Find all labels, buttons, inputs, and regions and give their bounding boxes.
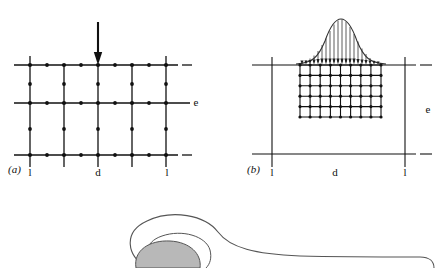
panel-a-tick-left: l [28, 166, 31, 178]
panel-a-centerline-dashes [182, 65, 192, 155]
panel-b-dim-width: d [332, 166, 338, 178]
point-load-arrow-icon [94, 22, 102, 65]
panel-a: (a) l d l e [8, 22, 199, 178]
panel-a-grid-horizontal [14, 65, 190, 155]
distributed-load-bell-curve [296, 19, 386, 64]
figure-root: (a) l d l e [0, 0, 441, 268]
panel-b-mesh-vertical [300, 65, 381, 117]
panel-a-grid-vertical [30, 56, 166, 167]
panel-a-dim-depth: e [194, 96, 199, 108]
panel-b-label: (b) [247, 163, 260, 176]
panel-b-tick-right: l [403, 166, 406, 178]
panel-a-tick-right: l [165, 166, 168, 178]
panel-a-dim-width: d [95, 166, 101, 178]
bottom-partial-figure [130, 215, 434, 268]
panel-a-label: (a) [8, 163, 21, 176]
panel-b-frame-vertical [272, 57, 405, 167]
panel-b-dim-depth: e [426, 103, 431, 115]
panel-b-tick-left: l [270, 166, 273, 178]
panel-b: (b) l d l e [247, 19, 432, 178]
panel-b-frame-horizontal [252, 65, 416, 154]
technical-figure: (a) l d l e [0, 0, 441, 268]
